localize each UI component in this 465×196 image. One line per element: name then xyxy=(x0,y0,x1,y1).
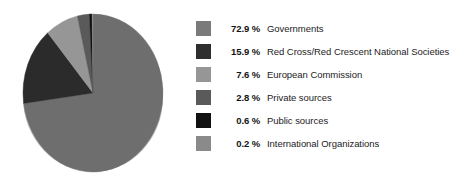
legend-percent: 0.6 % xyxy=(220,115,260,126)
legend-swatch-icon xyxy=(196,113,211,128)
legend-swatch-icon xyxy=(196,67,211,82)
legend-label: Governments xyxy=(267,23,323,34)
pie-chart-figure: 72.9 % Governments 15.9 % Red Cross/Red … xyxy=(0,0,465,196)
legend-percent: 72.9 % xyxy=(220,23,260,34)
legend-percent: 2.8 % xyxy=(220,92,260,103)
legend-swatch-icon xyxy=(196,90,211,105)
legend-item-public-sources[interactable]: 0.6 % Public sources xyxy=(196,109,461,132)
legend-swatch-icon xyxy=(196,21,211,36)
legend-item-red-cross-red-crescent-national-societies[interactable]: 15.9 % Red Cross/Red Crescent National S… xyxy=(196,40,461,63)
legend-percent: 0.2 % xyxy=(220,138,260,149)
pie-slice-group xyxy=(23,14,163,172)
legend-item-international-organizations[interactable]: 0.2 % International Organizations xyxy=(196,132,461,155)
pie-chart-plot xyxy=(0,0,186,196)
pie-chart-svg xyxy=(0,0,186,196)
legend-swatch-icon xyxy=(196,136,211,151)
legend-label: Private sources xyxy=(267,92,332,103)
legend-swatch-icon xyxy=(196,44,211,59)
legend-item-european-commission[interactable]: 7.6 % European Commission xyxy=(196,63,461,86)
chart-legend: 72.9 % Governments 15.9 % Red Cross/Red … xyxy=(196,17,461,155)
legend-label: Public sources xyxy=(267,115,328,126)
legend-percent: 15.9 % xyxy=(220,46,260,57)
legend-label: Red Cross/Red Crescent National Societie… xyxy=(267,46,449,57)
legend-item-governments[interactable]: 72.9 % Governments xyxy=(196,17,461,40)
legend-label: European Commission xyxy=(267,69,362,80)
legend-percent: 7.6 % xyxy=(220,69,260,80)
legend-item-private-sources[interactable]: 2.8 % Private sources xyxy=(196,86,461,109)
legend-label: International Organizations xyxy=(267,138,379,149)
